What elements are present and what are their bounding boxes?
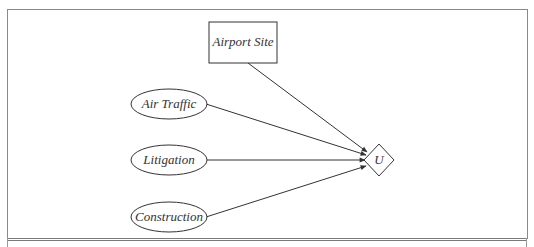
edges — [206, 63, 367, 217]
influence-diagram: Airport Site Air Traffic Litigation Cons… — [0, 0, 534, 247]
node-label-construction: Construction — [135, 209, 203, 224]
node-utility[interactable]: U — [364, 144, 394, 176]
node-air-traffic[interactable]: Air Traffic — [131, 89, 207, 119]
node-label-utility: U — [374, 152, 385, 167]
node-construction[interactable]: Construction — [131, 202, 207, 232]
edge-air-traffic-to-u — [206, 104, 366, 155]
node-label-air-traffic: Air Traffic — [141, 96, 197, 111]
node-label-airport-site: Airport Site — [211, 34, 273, 49]
node-label-litigation: Litigation — [142, 152, 194, 167]
node-litigation[interactable]: Litigation — [131, 145, 207, 175]
edge-construction-to-u — [206, 166, 366, 217]
edge-airport-site-to-u — [248, 63, 367, 152]
node-airport-site[interactable]: Airport Site — [209, 22, 277, 63]
